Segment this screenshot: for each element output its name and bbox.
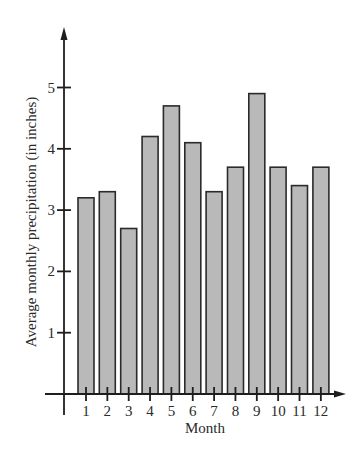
precipitation-bar-chart: 12345 123456789101112 Month Average mont… <box>0 0 355 450</box>
x-tick-label: 5 <box>168 403 176 419</box>
bar-month-12 <box>313 167 329 394</box>
bar-month-8 <box>228 167 244 394</box>
y-axis-arrow-icon <box>61 27 68 40</box>
bar-month-6 <box>185 143 201 394</box>
x-axis-title: Month <box>185 420 226 436</box>
x-tick-label: 1 <box>82 403 90 419</box>
x-tick-label: 12 <box>313 403 328 419</box>
x-tick-label: 2 <box>104 403 112 419</box>
bar-month-4 <box>142 137 158 395</box>
bar-series <box>78 94 329 394</box>
bar-month-10 <box>270 167 286 394</box>
x-tick-label: 6 <box>189 403 197 419</box>
x-tick-label: 4 <box>146 403 154 419</box>
x-tick-label: 8 <box>232 403 240 419</box>
y-tick-label: 3 <box>48 202 56 218</box>
bar-month-11 <box>292 186 308 394</box>
y-ticks: 12345 <box>48 80 72 341</box>
x-tick-label: 10 <box>271 403 286 419</box>
y-tick-label: 2 <box>48 263 56 279</box>
y-tick-label: 1 <box>48 325 56 341</box>
x-tick-label: 7 <box>210 403 218 419</box>
y-tick-label: 5 <box>48 80 56 96</box>
x-tick-label: 11 <box>292 403 306 419</box>
bar-month-3 <box>121 229 137 395</box>
bar-month-9 <box>249 94 265 394</box>
x-axis-arrow-icon <box>334 391 346 398</box>
bar-month-7 <box>206 192 222 394</box>
y-axis-title: Average monthly precipitation (in inches… <box>23 97 40 347</box>
x-tick-label: 3 <box>125 403 133 419</box>
bar-month-2 <box>99 192 115 394</box>
bar-month-1 <box>78 198 94 394</box>
bar-month-5 <box>163 106 179 394</box>
x-tick-label: 9 <box>253 403 261 419</box>
y-tick-label: 4 <box>48 141 56 157</box>
